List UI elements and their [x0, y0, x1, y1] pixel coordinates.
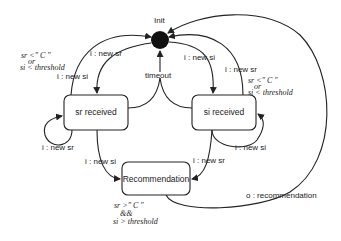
- state-si-received[interactable]: si received: [192, 95, 256, 130]
- edge-timeout-si: [160, 78, 192, 108]
- edge-label: i : new si: [57, 72, 88, 81]
- edge-label: timeout: [145, 71, 172, 80]
- initial-state: Init: [151, 16, 169, 49]
- initial-state-dot: [151, 31, 169, 49]
- edge-label: o : recommendation: [246, 191, 317, 200]
- svg-text:si > threshold: si > threshold: [113, 217, 159, 226]
- state-label: si received: [204, 107, 245, 117]
- init-label: Init: [154, 16, 165, 25]
- edge-label: i : new si: [85, 157, 116, 166]
- edge-label: i : new si: [184, 53, 215, 62]
- svg-text:sr <" C ": sr <" C ": [21, 51, 51, 60]
- state-recommendation[interactable]: Recommendation: [122, 162, 190, 195]
- edge-si-to-rec: [192, 130, 212, 179]
- edge-sr-to-init: [71, 35, 151, 95]
- svg-text:si < threshold: si < threshold: [20, 63, 66, 72]
- edge-label: i : new sr: [42, 143, 74, 152]
- state-label: Recommendation: [123, 174, 190, 184]
- svg-text:sr <" C ": sr <" C ": [248, 76, 278, 85]
- state-sr-received[interactable]: sr received: [64, 95, 128, 130]
- edge-sr-to-rec: [97, 130, 120, 179]
- edge-label: i : new sr: [90, 49, 122, 58]
- edge-timeout-sr: [128, 78, 160, 108]
- svg-text:si < threshold: si < threshold: [248, 88, 294, 97]
- guard-left: sr <" C " or si < threshold: [20, 51, 66, 72]
- edge-label: i : new si: [235, 143, 266, 152]
- edge-label: i : new sr: [225, 65, 257, 74]
- edge-label: i : new sr: [193, 156, 225, 165]
- edge-init-to-si: [169, 42, 213, 93]
- state-label: sr received: [75, 107, 117, 117]
- state-diagram: Init sr received si received Recommendat…: [0, 0, 341, 241]
- guard-recommendation: sr >" C " && si > threshold: [113, 201, 159, 226]
- guard-right: sr <" C " or si < threshold: [248, 76, 294, 97]
